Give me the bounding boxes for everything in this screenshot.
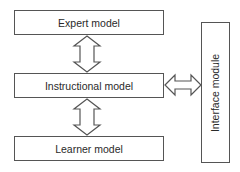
learner-model-label: Learner model xyxy=(55,143,123,155)
instructional-model-label: Instructional model xyxy=(45,80,133,92)
arrow-instructional-learner xyxy=(74,99,100,135)
arrow-instructional-interface xyxy=(165,75,201,95)
arrow-expert-instructional xyxy=(74,36,100,72)
interface-module-box: Interface module xyxy=(201,22,230,163)
instructional-model-box: Instructional model xyxy=(14,73,164,98)
expert-model-box: Expert model xyxy=(14,10,164,35)
interface-module-label: Interface module xyxy=(210,53,222,131)
learner-model-box: Learner model xyxy=(14,136,164,161)
expert-model-label: Expert model xyxy=(58,17,120,29)
